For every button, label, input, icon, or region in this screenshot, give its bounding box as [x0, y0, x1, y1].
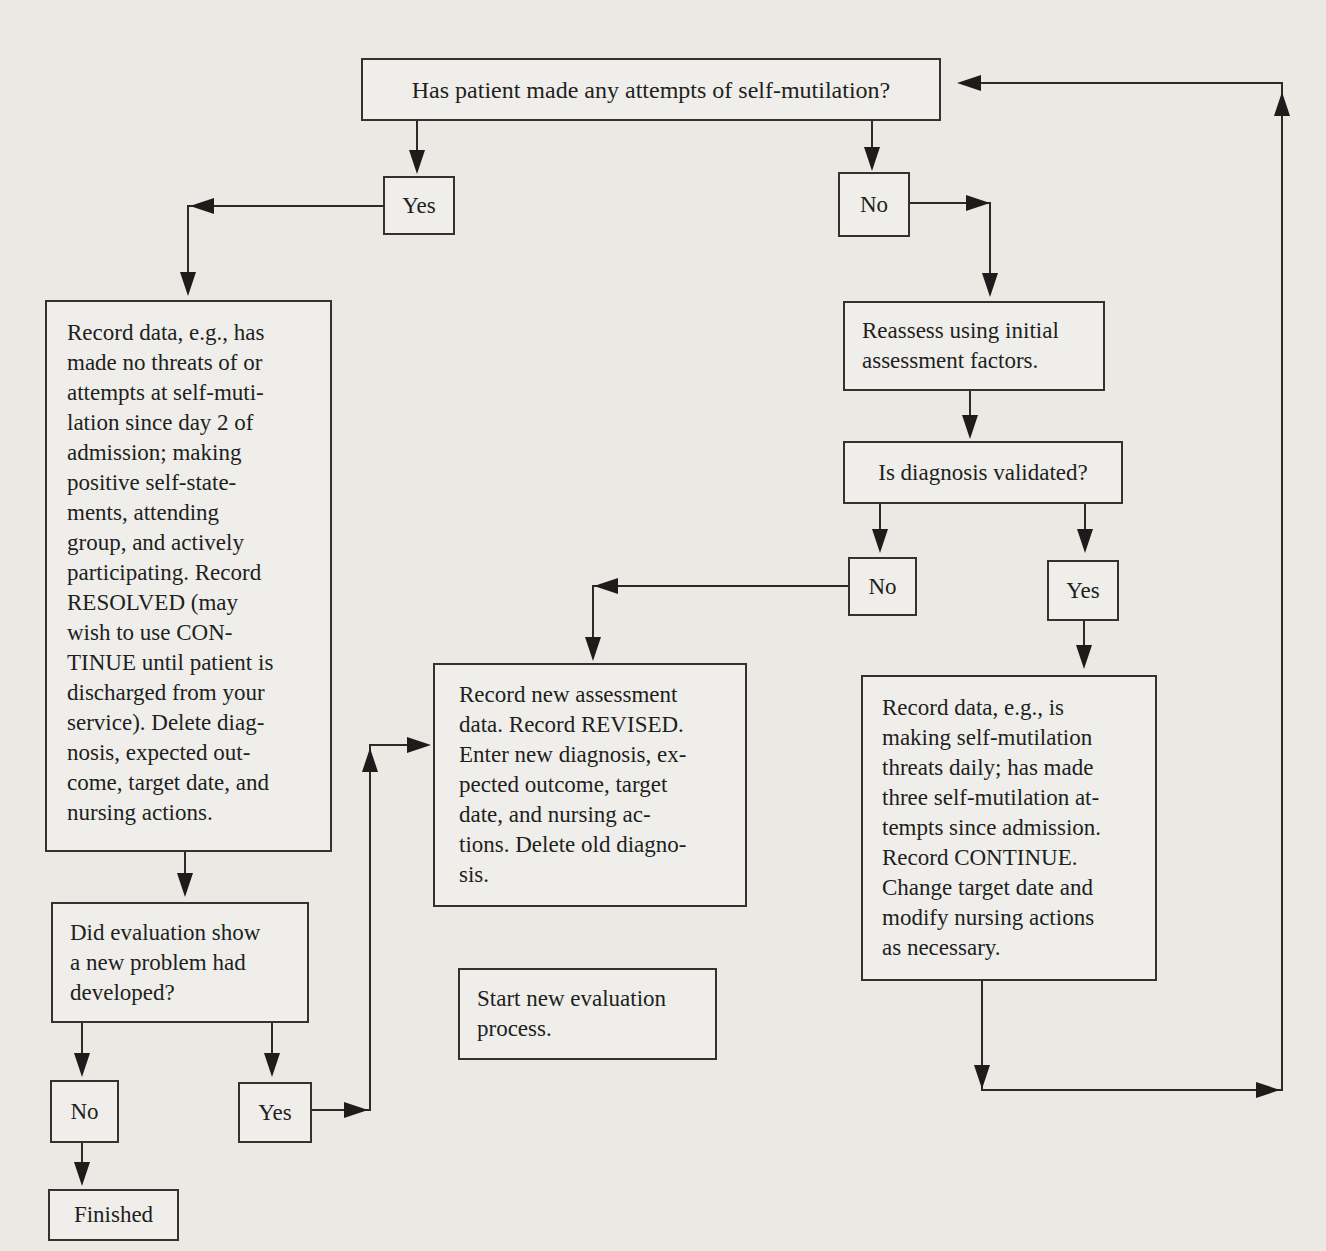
- arrow-left-icon: [957, 75, 981, 91]
- node-no-top-text: No: [860, 190, 888, 220]
- arrow-down-icon: [180, 272, 196, 296]
- node-no-validated: No: [848, 557, 917, 616]
- node-reassess: Reassess using initial assessment factor…: [843, 301, 1105, 391]
- node-question-self-mutilation-text: Has patient made any attempts of self-mu…: [412, 75, 891, 105]
- node-no-new-problem-text: No: [70, 1097, 98, 1127]
- node-record-resolved: Record data, e.g., has made no threats o…: [45, 300, 332, 852]
- node-yes-validated-text: Yes: [1066, 576, 1099, 606]
- arrow-down-icon: [74, 1053, 90, 1077]
- arrow-right-icon: [407, 737, 431, 753]
- node-record-revised: Record new assessment data. Record REVIS…: [433, 663, 747, 907]
- node-finished: Finished: [48, 1189, 179, 1241]
- node-question-diagnosis-validated-text: Is diagnosis validated?: [878, 458, 1088, 488]
- node-no-new-problem: No: [50, 1080, 119, 1143]
- node-yes-new-problem-text: Yes: [258, 1098, 291, 1128]
- node-yes-validated: Yes: [1047, 560, 1119, 621]
- arrow-down-icon: [585, 637, 601, 661]
- node-record-revised-text: Record new assessment data. Record REVIS…: [459, 682, 686, 887]
- arrow-down-icon: [872, 529, 888, 553]
- node-record-continue: Record data, e.g., is making self-mutila…: [861, 675, 1157, 981]
- arrow-down-icon: [962, 415, 978, 439]
- arrow-down-icon: [177, 873, 193, 897]
- node-reassess-text: Reassess using initial assessment factor…: [862, 318, 1059, 373]
- arrow-down-icon: [1077, 529, 1093, 553]
- node-yes-top-text: Yes: [402, 191, 435, 221]
- node-start-new-evaluation-text: Start new evaluation process.: [477, 986, 666, 1041]
- arrow-right-icon: [344, 1102, 368, 1118]
- node-start-new-evaluation: Start new evaluation process.: [458, 968, 717, 1060]
- node-record-resolved-text: Record data, e.g., has made no threats o…: [67, 320, 273, 825]
- node-question-new-problem-text: Did evaluation show a new problem had de…: [70, 920, 260, 1005]
- arrow-down-icon: [74, 1162, 90, 1186]
- node-question-diagnosis-validated: Is diagnosis validated?: [843, 441, 1123, 504]
- flowchart-canvas: Has patient made any attempts of self-mu…: [0, 0, 1326, 1251]
- arrow-down-icon: [982, 273, 998, 297]
- arrow-down-icon: [1076, 645, 1092, 669]
- arrow-down-icon: [864, 147, 880, 171]
- node-yes-new-problem: Yes: [238, 1082, 312, 1143]
- node-record-continue-text: Record data, e.g., is making self-mutila…: [882, 695, 1101, 960]
- arrow-left-icon: [190, 198, 214, 214]
- arrow-down-icon: [264, 1053, 280, 1077]
- node-no-validated-text: No: [868, 572, 896, 602]
- node-finished-text: Finished: [74, 1200, 153, 1230]
- arrow-right-icon: [966, 195, 990, 211]
- arrow-down-icon: [974, 1065, 990, 1089]
- arrow-down-icon: [409, 150, 425, 174]
- arrow-right-icon: [1256, 1082, 1280, 1098]
- arrow-up-icon: [1274, 92, 1290, 116]
- node-no-top: No: [838, 172, 910, 237]
- arrow-up-icon: [362, 748, 378, 772]
- node-yes-top: Yes: [383, 176, 455, 235]
- node-question-new-problem: Did evaluation show a new problem had de…: [51, 902, 309, 1023]
- arrow-left-icon: [594, 578, 618, 594]
- node-question-self-mutilation: Has patient made any attempts of self-mu…: [361, 58, 941, 121]
